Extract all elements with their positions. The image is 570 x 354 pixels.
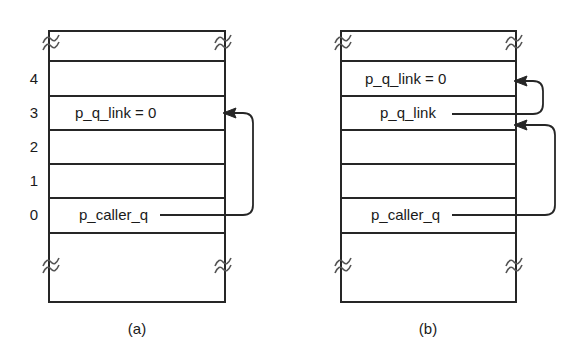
- panel-b-slot-4-label: p_q_link = 0: [365, 71, 446, 86]
- panel-a-slot-0-label: p_caller_q: [79, 207, 148, 222]
- panel-a-stack-frame: [49, 31, 225, 302]
- panel-a-index-0: 0: [20, 207, 38, 222]
- diagram-canvas: [0, 0, 570, 354]
- stack-pointer-diagram: 4 3 2 1 0 p_q_link = 0 p_caller_q (a) p_…: [0, 0, 570, 354]
- panel-b-slot-0-label: p_caller_q: [371, 207, 440, 222]
- panel-a-index-2: 2: [20, 139, 38, 154]
- panel-b-slot-3-label: p_q_link: [380, 105, 436, 120]
- panel-b-caption: (b): [398, 321, 458, 336]
- panel-a-caption: (a): [107, 321, 167, 336]
- panel-a-index-4: 4: [20, 71, 38, 86]
- panel-a-index-3: 3: [20, 105, 38, 120]
- panel-a-slot-3-label: p_q_link = 0: [75, 105, 156, 120]
- panel-a-index-1: 1: [20, 173, 38, 188]
- panel-a-group: [43, 31, 253, 302]
